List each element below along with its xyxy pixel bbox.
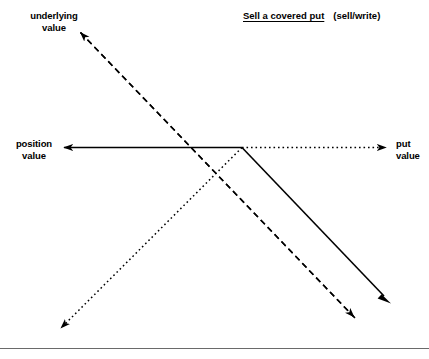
put-value-rising-segment: [61, 148, 242, 329]
put-value-label: put value: [396, 138, 428, 161]
underlying-value-label-line2: value: [12, 22, 96, 34]
underlying-value-label-line1: underlying: [12, 10, 96, 22]
underlying-value-line: [81, 33, 356, 319]
underlying-value-line-tail: [81, 33, 355, 318]
figure-title: Sell a covered put (sell/write): [243, 10, 380, 21]
position-value-label-line1: position: [8, 138, 60, 150]
diagram-page: Sell a covered put (sell/write) underlyi…: [0, 0, 429, 359]
position-value-label-line2: value: [8, 150, 60, 162]
position-value-label: position value: [8, 138, 60, 161]
underlying-value-label: underlying value: [12, 10, 96, 33]
put-value-label-line1: put: [396, 138, 428, 150]
put-value-label-line2: value: [396, 150, 428, 162]
figure-title-main: Sell a covered put: [243, 10, 324, 21]
payoff-diagram: [0, 0, 429, 359]
page-bottom-rule: [0, 348, 429, 349]
figure-title-qualifier: (sell/write): [333, 10, 380, 21]
